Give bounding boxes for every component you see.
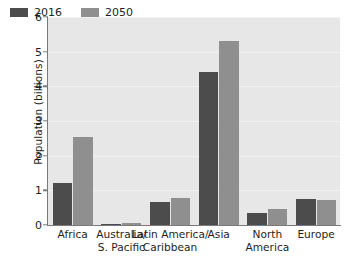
bar-2050-africa (73, 137, 93, 225)
bar-2016-latin-america-caribbean (150, 202, 170, 225)
y-tick-label: 5 (22, 46, 42, 57)
legend-swatch-icon (10, 8, 28, 17)
y-tick-label: 2 (22, 150, 42, 161)
x-tick-label-line1: Asia (208, 228, 230, 240)
y-tick-mark (43, 51, 48, 52)
x-tick-label: Europe (297, 228, 334, 241)
bar-2050-asia (219, 41, 239, 225)
x-tick-label: NorthAmerica (246, 228, 290, 253)
y-tick-mark (43, 224, 48, 225)
legend-label: 2016 (34, 7, 62, 18)
population-bar-chart: Population (billions) 0123456 20162050 A… (0, 0, 357, 269)
x-axis-tick-labels: AfricaAustralia/S. PacificLatin America/… (48, 228, 340, 268)
bar-2050-europe (317, 200, 337, 225)
legend-swatch-icon (81, 8, 99, 17)
chart-legend: 20162050 (10, 7, 133, 18)
y-tick-mark (43, 120, 48, 121)
y-tick-label: 0 (22, 220, 42, 231)
y-tick-mark (43, 155, 48, 156)
legend-label: 2050 (105, 7, 133, 18)
bar-2050-north-america (268, 209, 288, 225)
bar-group (97, 17, 146, 225)
x-tick-label-line1: Europe (297, 228, 334, 240)
plot-area (48, 17, 340, 225)
bar-2016-africa (53, 183, 73, 225)
y-tick-mark (43, 190, 48, 191)
bar-2050-australia-s-pacific (122, 223, 142, 225)
x-tick-label: Asia (208, 228, 230, 241)
x-tick-label-line1: Africa (58, 228, 88, 240)
bar-group (194, 17, 243, 225)
bar-2016-europe (296, 199, 316, 225)
x-tick-label-line2: Caribbean (132, 241, 209, 254)
y-tick-label: 1 (22, 185, 42, 196)
y-tick-label: 3 (22, 116, 42, 127)
bar-group (146, 17, 195, 225)
x-tick-label-line2: America (246, 241, 290, 254)
bar-group (292, 17, 341, 225)
legend-item-2016: 2016 (10, 7, 62, 18)
y-tick-mark (43, 86, 48, 87)
bar-2016-australia-s-pacific (101, 224, 121, 225)
x-tick-label: Africa (58, 228, 88, 241)
x-tick-label: Latin America/Caribbean (132, 228, 209, 253)
x-tick-label-line1: Latin America/ (132, 228, 209, 240)
bar-2050-latin-america-caribbean (171, 198, 191, 225)
bar-2016-north-america (247, 213, 267, 225)
bar-group (243, 17, 292, 225)
bar-group (48, 17, 97, 225)
y-axis-tick-labels: 0123456 (22, 0, 42, 269)
bar-2016-asia (199, 72, 219, 225)
bar-groups (48, 17, 340, 225)
legend-item-2050: 2050 (81, 7, 133, 18)
y-tick-label: 4 (22, 81, 42, 92)
x-tick-label-line1: North (253, 228, 283, 240)
